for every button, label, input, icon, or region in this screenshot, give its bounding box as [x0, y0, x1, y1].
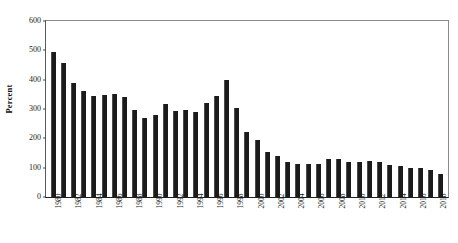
bar: [173, 111, 178, 197]
bar: [336, 159, 341, 197]
bar-slot: [426, 21, 436, 197]
y-axis-title-text: Percent: [4, 84, 14, 113]
bar-slot: [262, 21, 272, 197]
x-axis-tick-slot: 2016: [412, 199, 427, 243]
bar-slot: [303, 21, 313, 197]
bar: [398, 166, 403, 197]
plot-area: 0100200300400500600: [45, 20, 449, 198]
x-axis-tick-label: 1988: [136, 194, 144, 209]
bar: [71, 83, 76, 197]
bar: [193, 112, 198, 197]
bar-slot: [150, 21, 160, 197]
bar: [112, 94, 117, 197]
x-axis-tick-label: 1994: [196, 194, 204, 209]
bar-series: [46, 21, 448, 197]
x-axis-tick-slot: 1990: [148, 199, 163, 243]
bar: [265, 152, 270, 197]
bar: [51, 52, 56, 197]
bar: [244, 132, 249, 197]
bar: [183, 110, 188, 197]
bar-slot: [99, 21, 109, 197]
bar-slot: [405, 21, 415, 197]
bar: [428, 170, 433, 197]
bar: [224, 80, 229, 197]
x-axis-tick-label: 2010: [358, 194, 366, 209]
bar: [234, 108, 239, 197]
bar-slot: [283, 21, 293, 197]
bar-slot: [58, 21, 68, 197]
bar: [61, 63, 66, 197]
x-axis-tick-label: 2006: [318, 194, 326, 209]
bar: [306, 164, 311, 197]
bar-slot: [211, 21, 221, 197]
x-axis-tick-slot: 2000: [250, 199, 265, 243]
x-axis-tick-label: 2004: [298, 194, 306, 209]
x-axis-tick-slot: 1982: [67, 199, 82, 243]
bar-slot: [232, 21, 242, 197]
bar-slot: [68, 21, 78, 197]
chart-figure: Percent 0100200300400500600 198019821984…: [0, 0, 458, 243]
bar: [102, 95, 107, 197]
x-axis-tick-label: 1992: [176, 194, 184, 209]
bar-slot: [221, 21, 231, 197]
bar: [316, 164, 321, 197]
bar-slot: [415, 21, 425, 197]
bar: [346, 162, 351, 197]
bar: [285, 162, 290, 197]
x-axis-tick-slot: 2018: [432, 199, 447, 243]
bar-slot: [140, 21, 150, 197]
bar: [204, 103, 209, 197]
bar-slot: [109, 21, 119, 197]
bar-slot: [395, 21, 405, 197]
x-axis-tick-slot: 1998: [229, 199, 244, 243]
bar-slot: [181, 21, 191, 197]
bar: [367, 161, 372, 197]
x-axis-tick-label: 1996: [217, 194, 225, 209]
bar-slot: [344, 21, 354, 197]
bar-slot: [436, 21, 446, 197]
x-axis-tick-slot: 1988: [128, 199, 143, 243]
bar-slot: [293, 21, 303, 197]
bar: [295, 164, 300, 197]
x-axis-tick-slot: 2014: [392, 199, 407, 243]
bar: [91, 96, 96, 197]
bar: [275, 156, 280, 197]
bar-slot: [170, 21, 180, 197]
bar: [81, 91, 86, 197]
x-axis-tick-slot: 1996: [209, 199, 224, 243]
x-axis-tick-label: 2002: [277, 194, 285, 209]
x-axis-tick-slot: 2008: [331, 199, 346, 243]
x-axis-tick-slot: 1986: [108, 199, 123, 243]
bar-slot: [252, 21, 262, 197]
bar-slot: [364, 21, 374, 197]
bar: [163, 104, 168, 197]
x-axis-tick-slot: 1980: [47, 199, 62, 243]
x-axis-tick-label: 1982: [75, 194, 83, 209]
x-axis-tick-label: 1980: [55, 194, 63, 209]
bar-slot: [119, 21, 129, 197]
bar-slot: [130, 21, 140, 197]
x-axis-tick-label: 1984: [95, 194, 103, 209]
bar-slot: [79, 21, 89, 197]
x-axis-tick-slot: 2002: [270, 199, 285, 243]
bar-slot: [375, 21, 385, 197]
x-axis-tick-slot: 2010: [351, 199, 366, 243]
x-axis-tick-label: 2012: [379, 194, 387, 209]
bar-slot: [323, 21, 333, 197]
bar-slot: [160, 21, 170, 197]
bar: [377, 162, 382, 197]
x-axis-tick-slot: 1992: [169, 199, 184, 243]
x-axis-tick-slot: 1994: [189, 199, 204, 243]
x-axis-tick-label: 2008: [338, 194, 346, 209]
bar: [255, 140, 260, 197]
bar: [214, 96, 219, 197]
bar-slot: [354, 21, 364, 197]
x-axis-tick-slot: 2012: [371, 199, 386, 243]
x-axis-tick-slot: 2006: [310, 199, 325, 243]
bar: [132, 110, 137, 197]
bar: [122, 97, 127, 197]
y-axis-title: Percent: [0, 0, 18, 198]
x-axis-tick-label: 2000: [257, 194, 265, 209]
bar: [357, 162, 362, 197]
x-axis-tick-label: 2016: [419, 194, 427, 209]
